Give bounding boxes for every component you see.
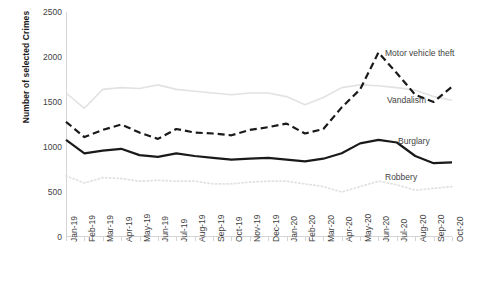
x-axis-tick-label: Nov-19 (253, 215, 262, 242)
x-axis-tick-label: May-19 (143, 214, 152, 242)
x-axis-tick-label: Oct-20 (456, 216, 465, 242)
x-axis-tick-label: Jun-19 (161, 216, 170, 242)
x-axis-tick-label: Jul-20 (400, 219, 409, 242)
y-axis-tick-label: 2000 (26, 53, 62, 62)
x-axis-tick-label: Aug-20 (419, 215, 428, 242)
x-axis-tick-label: May-20 (364, 214, 373, 242)
series-label-robbery: Robbery (385, 172, 417, 182)
x-axis-tick (397, 237, 398, 241)
x-axis-tick (434, 237, 435, 241)
x-axis-tick (195, 237, 196, 241)
y-axis-tick-label: 0 (26, 233, 62, 242)
x-axis-tick (140, 237, 141, 241)
series-label-vandalism: Vandalism (387, 95, 426, 105)
x-axis-tick (305, 237, 306, 241)
x-axis-tick (268, 237, 269, 241)
x-axis-tick (323, 237, 324, 241)
x-axis-tick (250, 237, 251, 241)
x-axis-tick (213, 237, 214, 241)
x-axis-tick (121, 237, 122, 241)
x-axis-tick-label: Aug-19 (198, 215, 207, 242)
x-axis-tick (231, 237, 232, 241)
x-axis-tick-label: Sep-20 (437, 215, 446, 242)
x-axis-tick (158, 237, 159, 241)
series-canvas (66, 12, 452, 237)
series-line-burglary (66, 140, 452, 163)
x-axis-tick-label: Jul-19 (180, 219, 189, 242)
x-axis-tick (452, 237, 453, 241)
x-axis-tick (342, 237, 343, 241)
x-axis-tick-label: Jan-20 (290, 216, 299, 242)
x-axis-tick-label: Feb-20 (308, 215, 317, 242)
x-axis-tick (378, 237, 379, 241)
x-axis-tick-label: Mar-20 (327, 215, 336, 242)
x-axis-tick-label: Apr-19 (125, 216, 134, 242)
x-axis-tick-label: Jan-19 (70, 216, 79, 242)
x-axis-tick-label: Feb-19 (88, 215, 97, 242)
y-axis-tick-label: 2500 (26, 8, 62, 17)
series-label-motor-vehicle-theft: Motor vehicle theft (385, 48, 454, 58)
x-axis-tick-label: Apr-20 (345, 216, 354, 242)
x-axis-tick-label: Jun-20 (382, 216, 391, 242)
y-axis-tick-labels: 05001000150020002500 (22, 0, 62, 295)
x-axis-tick-labels: Jan-19Feb-19Mar-19Apr-19May-19Jun-19Jul-… (66, 242, 452, 294)
x-axis-tick-label: Sep-19 (217, 215, 226, 242)
x-axis-tick (176, 237, 177, 241)
x-axis-tick-label: Oct-19 (235, 216, 244, 242)
y-axis-tick-label: 1500 (26, 98, 62, 107)
x-axis-tick-label: Dec-19 (272, 215, 281, 242)
x-axis-tick (360, 237, 361, 241)
x-axis-tick (287, 237, 288, 241)
x-axis-tick-label: Mar-19 (106, 215, 115, 242)
plot-area (66, 12, 452, 237)
y-axis-tick-label: 1000 (26, 143, 62, 152)
x-axis-tick (84, 237, 85, 241)
x-axis-tick (103, 237, 104, 241)
series-label-burglary: Burglary (398, 136, 430, 146)
crime-trend-line-chart: Number of selected Crimes 05001000150020… (0, 0, 485, 295)
x-axis-tick (66, 237, 67, 241)
x-axis-tick (415, 237, 416, 241)
y-axis-tick-label: 500 (26, 188, 62, 197)
